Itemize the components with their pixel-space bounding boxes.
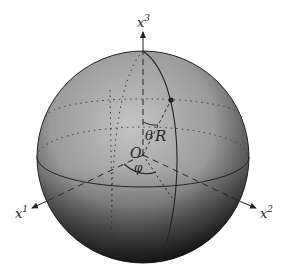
x3-label: x3 <box>137 13 150 30</box>
phi-label: φ <box>134 161 143 175</box>
x1-axis-outer <box>32 201 47 208</box>
diagram-canvas: x3 x1 x2 O R θ φ <box>0 0 287 277</box>
x2-axis-outer <box>239 201 256 208</box>
point-marker <box>168 97 173 102</box>
radius-label: R <box>154 127 166 145</box>
theta-label: θ <box>145 128 153 143</box>
origin-label: O <box>130 145 142 161</box>
x2-label: x2 <box>260 204 273 221</box>
x1-label: x1 <box>15 204 28 221</box>
sphere-diagram: x3 x1 x2 O R θ φ <box>0 0 287 277</box>
